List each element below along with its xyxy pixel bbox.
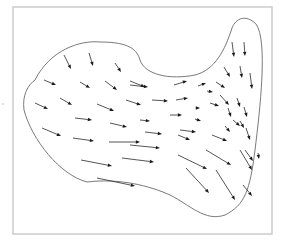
arrowhead-icon: [146, 119, 150, 122]
vector-arrow: [73, 138, 94, 142]
arrow-shaft: [89, 53, 92, 62]
arrowhead-icon: [247, 135, 250, 140]
arrowhead-icon: [237, 102, 240, 107]
vector-arrow: [243, 185, 252, 196]
vector-field-diagram: [0, 0, 286, 244]
arrow-shaft: [64, 55, 69, 65]
arrowhead-icon: [113, 86, 117, 90]
arrowhead-icon: [231, 196, 235, 200]
arrow-shaft: [244, 107, 246, 113]
arrowhead-icon: [56, 133, 61, 136]
vector-arrow: [115, 63, 121, 72]
arrow-shaft: [60, 98, 68, 103]
arrowhead-icon: [221, 84, 225, 88]
arrow-shaft: [122, 158, 150, 161]
arrowhead-icon: [214, 103, 219, 106]
arrow-shaft: [178, 135, 186, 138]
arrow-shaft: [180, 130, 192, 131]
arrowhead-icon: [108, 164, 112, 167]
arrowhead-icon: [249, 157, 253, 161]
vector-arrow: [176, 97, 188, 100]
arrowhead-icon: [86, 84, 90, 88]
arrowhead-icon: [123, 124, 127, 127]
arrowhead-icon: [248, 166, 252, 170]
arrow-shaft: [232, 42, 233, 53]
arrowhead-icon: [88, 118, 92, 121]
arrowhead-icon: [150, 160, 154, 163]
arrow-shaft: [216, 82, 222, 86]
arrowhead-icon: [184, 97, 188, 100]
vector-arrow: [35, 103, 48, 109]
vector-arrow: [126, 100, 141, 105]
vector-arrow: [233, 120, 240, 126]
vector-arrow: [152, 99, 168, 102]
arrowhead-icon: [117, 68, 121, 72]
arrow-shaft: [210, 103, 215, 105]
arrow-shaft: [110, 123, 123, 126]
arrow-shaft: [35, 103, 44, 107]
vector-arrow: [240, 121, 244, 128]
arrowhead-icon: [90, 61, 93, 66]
vector-arrow: [257, 153, 260, 159]
vector-arrow: [140, 119, 150, 122]
arrow-shaft: [206, 150, 227, 163]
arrowhead-icon: [201, 83, 206, 86]
arrow-shaft: [80, 82, 86, 86]
arrow-shaft: [42, 128, 57, 134]
vector-arrow: [109, 140, 140, 143]
arrowhead-icon: [185, 137, 190, 140]
vector-arrow: [178, 155, 207, 169]
arrow-shaft: [81, 160, 108, 165]
vector-arrow: [237, 98, 240, 107]
vector-arrow: [174, 81, 187, 85]
arrowhead-icon: [51, 82, 56, 85]
arrow-shaft: [130, 81, 141, 85]
arrowhead-icon: [136, 140, 140, 143]
arrowhead-icon: [192, 130, 196, 133]
vector-arrow: [240, 150, 252, 170]
arrowhead-icon: [222, 138, 227, 141]
vector-arrow: [228, 108, 231, 117]
vector-arrow: [225, 126, 230, 132]
arrow-shaft: [224, 67, 228, 73]
arrowhead-icon: [202, 166, 207, 169]
vector-arrow: [42, 128, 61, 136]
vector-arrow: [232, 42, 235, 57]
arrowhead-icon: [144, 85, 148, 88]
vector-arrow: [81, 160, 112, 167]
arrowhead-icon: [43, 106, 48, 109]
arrow-shaft: [126, 100, 137, 104]
arrowhead-icon: [257, 155, 260, 159]
vector-arrow: [224, 67, 230, 77]
vector-arrow: [206, 150, 231, 165]
arrowhead-icon: [243, 52, 246, 56]
arrow-shaft: [240, 121, 242, 124]
arrow-shaft: [44, 80, 52, 83]
vector-arrow: [75, 118, 92, 121]
vector-arrow: [195, 118, 201, 121]
arrowhead-icon: [68, 101, 72, 105]
arrowhead-icon: [164, 99, 168, 102]
arrowhead-icon: [250, 85, 253, 89]
arrow-shaft: [240, 66, 241, 74]
arrow-shaft: [130, 145, 156, 148]
arrowhead-icon: [68, 64, 71, 69]
arrow-shaft: [250, 73, 251, 85]
vector-arrow: [216, 170, 235, 200]
arrow-shaft: [246, 128, 249, 136]
arrowhead-icon: [209, 90, 213, 93]
arrow-shaft: [225, 126, 227, 129]
vector-arrows: [35, 42, 260, 200]
arrow-shaft: [220, 95, 226, 102]
vector-arrow: [130, 145, 160, 149]
arrowhead-icon: [232, 53, 235, 57]
arrow-shaft: [245, 150, 251, 158]
vector-arrow: [207, 90, 213, 93]
arrow-shaft: [174, 82, 183, 85]
vector-arrow: [178, 135, 190, 140]
arrow-shaft: [115, 63, 119, 69]
arrow-shaft: [152, 100, 164, 101]
arrow-shaft: [237, 98, 239, 103]
arrow-shaft: [97, 178, 131, 185]
vector-arrow: [122, 158, 154, 163]
